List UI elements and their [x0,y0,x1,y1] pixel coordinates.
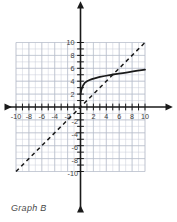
coordinate-plane: -10 -8 -6 -4 -2 2 4 6 8 10 10 8 6 4 2 -2… [0,0,177,222]
x-tick-label: 4 [104,112,108,121]
y-tick-label: -10 [68,169,78,178]
y-tick-label: 6 [71,64,75,73]
graph-caption: Graph B [11,203,47,213]
x-tick-label: 2 [91,112,95,121]
y-tick-label: 2 [71,90,75,99]
y-tick-label: -2 [72,117,78,126]
x-tick-label: -10 [11,112,21,121]
x-tick-label: 6 [117,112,121,121]
y-tick-label: 4 [71,77,75,86]
x-tick-label: -6 [39,112,45,121]
x-tick-label: -8 [26,112,32,121]
x-tick-label: 10 [141,112,149,121]
graph-figure: -10 -8 -6 -4 -2 2 4 6 8 10 10 8 6 4 2 -2… [0,0,177,222]
y-tick-label: 10 [67,38,75,47]
y-tick-label: 8 [71,51,75,60]
y-tick-label: -8 [72,156,78,165]
y-tick-label: -4 [72,130,78,139]
x-tick-label: 8 [130,112,134,121]
x-tick-label: -2 [64,112,70,121]
y-tick-label: -6 [72,143,78,152]
x-tick-label: -4 [51,112,57,121]
